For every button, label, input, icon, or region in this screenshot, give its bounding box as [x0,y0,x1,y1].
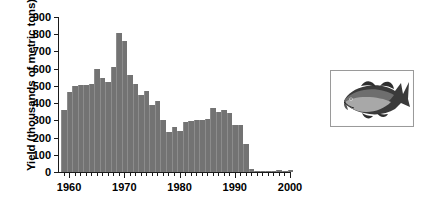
x-axis-tick-mark-minor [273,173,274,176]
y-axis-tick-mark [54,155,59,156]
x-axis-tick-mark-minor [168,173,169,176]
x-axis-tick-label: 2000 [278,180,302,194]
y-axis-tick-mark [54,69,59,70]
x-axis-tick-mark-minor [97,173,98,176]
x-axis-tick-mark-minor [80,173,81,176]
x-axis-tick-mark-minor [218,173,219,176]
x-axis-tick-mark-major [290,173,291,178]
x-axis-tick-mark-minor [202,173,203,176]
y-axis-tick-label: 500 [33,78,51,94]
x-axis-tick-label: 1980 [167,180,191,194]
x-axis-tick-mark-minor [191,173,192,176]
x-axis-tick-mark-minor [86,173,87,176]
x-axis-tick-mark-minor [268,173,269,176]
bar [288,170,294,172]
y-axis-tick-mark [54,172,59,173]
y-axis-tick-mark [54,120,59,121]
y-axis-line [58,17,59,173]
fishery-yield-figure: Yield (thousands of metric tons) 0100200… [0,0,422,211]
x-axis-tick-mark-minor [240,173,241,176]
x-axis-tick-mark-major [235,173,236,178]
x-axis-tick-label: 1990 [223,180,247,194]
x-axis-tick-label: 1970 [112,180,136,194]
y-axis-tick-label: 600 [33,61,51,77]
y-axis-tick-mark [54,34,59,35]
x-axis-tick-mark-minor [229,173,230,176]
y-axis-tick-mark [54,138,59,139]
x-axis-tick-mark-minor [102,173,103,176]
x-axis-tick-mark-minor [113,173,114,176]
x-axis-tick-mark-minor [119,173,120,176]
x-axis-tick-mark-minor [185,173,186,176]
x-axis-tick-mark-minor [91,173,92,176]
x-axis-tick-mark-minor [213,173,214,176]
x-axis-tick-mark-major [69,173,70,178]
x-axis-tick-mark-minor [163,173,164,176]
y-axis-tick-label: 900 [33,9,51,25]
x-axis-tick-mark-minor [108,173,109,176]
y-axis-tick-mark [54,51,59,52]
x-axis-tick-mark-minor [196,173,197,176]
y-axis-tick-mark [54,86,59,87]
x-axis-tick-mark-minor [262,173,263,176]
x-axis-tick-mark-minor [135,173,136,176]
x-axis-tick-mark-minor [141,173,142,176]
y-axis-tick-label: 300 [33,112,51,128]
x-axis-tick-mark-minor [207,173,208,176]
y-axis-tick-label: 0 [45,164,51,180]
y-axis-tick-label: 100 [33,147,51,163]
y-axis-tick-mark [54,103,59,104]
x-axis-tick-mark-major [124,173,125,178]
x-axis-tick-mark-minor [174,173,175,176]
x-axis-tick-mark-minor [130,173,131,176]
y-axis-tick-label: 400 [33,95,51,111]
plot-area: 0100200300400500600700800900 19601970198… [58,17,290,172]
x-axis-tick-mark-minor [64,173,65,176]
y-axis-tick-label: 200 [33,130,51,146]
y-axis-tick-label: 700 [33,43,51,59]
x-axis-tick-mark-minor [257,173,258,176]
x-axis-tick-mark-minor [157,173,158,176]
y-axis-tick-mark [54,17,59,18]
x-axis-tick-mark-minor [284,173,285,176]
x-axis-tick-mark-minor [279,173,280,176]
x-axis-tick-mark-minor [224,173,225,176]
x-axis-tick-mark-minor [246,173,247,176]
x-axis-tick-mark-minor [75,173,76,176]
x-axis-tick-label: 1960 [57,180,81,194]
cod-fish-illustration [331,71,412,125]
x-axis-tick-mark-minor [152,173,153,176]
x-axis-tick-mark-minor [146,173,147,176]
y-axis-tick-label: 800 [33,26,51,42]
x-axis-tick-mark-minor [251,173,252,176]
x-axis-tick-mark-major [180,173,181,178]
atlantic-cod-photo-inset [330,70,414,127]
